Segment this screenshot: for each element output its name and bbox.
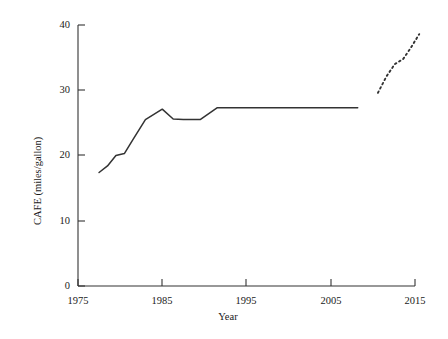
series-line-historical [99, 108, 358, 173]
x-tick-label-2005: 2005 [311, 296, 351, 307]
y-axis-title: CAFE (miles/gallon) [33, 137, 44, 225]
x-tick-label-2015: 2015 [395, 296, 435, 307]
y-tick-label-10: 10 [50, 216, 70, 227]
y-tick-label-40: 40 [50, 20, 70, 31]
y-axis-ticks [78, 25, 85, 286]
y-tick-label-20: 20 [50, 150, 70, 161]
x-tick-label-1985: 1985 [142, 296, 182, 307]
chart-figure: 40 30 20 10 0 1975 1985 1995 2005 2015 Y… [0, 0, 448, 339]
y-tick-label-0: 0 [50, 281, 70, 292]
series-line-projected [378, 34, 419, 93]
x-tick-label-1975: 1975 [58, 296, 98, 307]
x-axis-title: Year [218, 312, 237, 323]
y-tick-label-30: 30 [50, 85, 70, 96]
x-tick-label-1995: 1995 [226, 296, 266, 307]
x-axis-ticks [78, 279, 415, 286]
